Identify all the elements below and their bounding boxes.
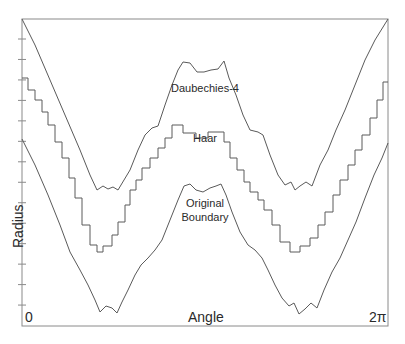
label-daubechies-4: Daubechies-4 xyxy=(170,81,240,95)
curves xyxy=(22,19,388,314)
chart-canvas xyxy=(0,0,405,344)
y-axis-label: Radius xyxy=(10,204,26,248)
x-tick-end: 2π xyxy=(369,309,386,325)
plot-frame xyxy=(22,19,388,326)
label-original-line1: Original xyxy=(175,196,235,210)
x-axis-label: Angle xyxy=(188,309,224,325)
curve-original-boundary xyxy=(22,139,388,314)
label-haar: Haar xyxy=(185,131,225,145)
label-original-line2: Boundary xyxy=(175,210,235,224)
curve-haar xyxy=(22,78,388,252)
x-tick-start: 0 xyxy=(25,309,33,325)
curve-daubechies-4 xyxy=(22,19,388,190)
label-original-boundary: Original Boundary xyxy=(175,196,235,224)
